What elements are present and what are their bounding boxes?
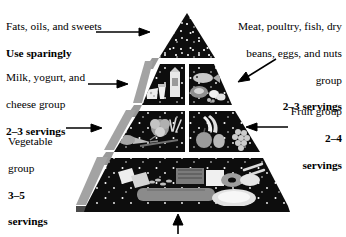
arrow-milk — [88, 80, 128, 88]
food-pyramid-diagram: Fats, oils, and sweets Use sparingly Mil… — [0, 0, 346, 237]
fats-line-1: Fats, oils, and sweets — [6, 20, 102, 33]
arrow-fats — [96, 28, 150, 36]
meat-line-1: Meat, poultry, fish, dry — [182, 20, 342, 33]
milk-line-2: cheese group — [6, 98, 85, 111]
vegetable-line-3: 3–5 — [8, 189, 53, 202]
arrow-base — [173, 214, 183, 234]
meat-line-2: beans, eggs, and nuts — [182, 47, 342, 60]
vegetable-line-1: Vegetable — [8, 135, 53, 148]
vegetable-line-2: group — [8, 162, 53, 175]
fruit-line-1: Fruit group — [222, 105, 342, 118]
meat-line-3: group — [182, 74, 342, 87]
vegetable-line-4: servings — [8, 215, 53, 228]
fruit-line-2: 2–4 — [222, 132, 342, 145]
milk-line-1: Milk, yogurt, and — [6, 71, 85, 84]
label-fruit-group: Fruit group 2–4 servings — [222, 92, 342, 185]
label-vegetable-group: Vegetable group 3–5 servings — [8, 122, 53, 237]
fruit-line-3: servings — [222, 159, 342, 172]
